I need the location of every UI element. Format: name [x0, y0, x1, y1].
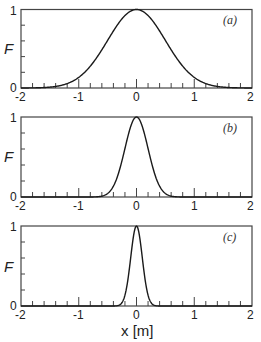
panel-b-ytick-1: 1: [10, 111, 17, 125]
panel-a-xticklabels: -2 -1 0 1 2: [15, 90, 254, 104]
panel-b-curve: [21, 117, 252, 197]
x-axis-label: x [m]: [121, 322, 154, 339]
figure: F 1 0 (a) -2 -1 0 1 2 F 1 0 (b) -2 -1 0 …: [0, 0, 261, 342]
panel-b-xtick--2: -2: [15, 199, 26, 213]
panel-a-ticks: [21, 25, 240, 88]
panel-c-xtick-0: 0: [133, 308, 140, 322]
panel-a-frame: [21, 10, 252, 89]
panel-b-frame: [21, 117, 252, 197]
panel-a-curve: [21, 10, 252, 88]
panel-a-xtick-0: 0: [133, 90, 140, 104]
panel-a-ylabel: F: [4, 40, 14, 57]
panel-c-ytick-1: 1: [10, 220, 17, 234]
panel-b-xtick-0: 0: [133, 199, 140, 213]
panel-c: F 1 0 (c) -2 -1 0 1 2 x [m]: [4, 220, 254, 339]
panel-b: F 1 0 (b) -2 -1 0 1 2: [4, 111, 254, 213]
panel-a-label: (a): [223, 13, 237, 27]
panel-c-xtick-2: 2: [247, 308, 254, 322]
panel-b-xtick--1: -1: [73, 199, 84, 213]
panel-c-xtick--2: -2: [15, 308, 26, 322]
panel-c-frame: [21, 226, 252, 306]
panel-a-xtick-2: 2: [247, 90, 254, 104]
panel-b-xticklabels: -2 -1 0 1 2: [15, 199, 254, 213]
panel-a-xtick--1: -1: [73, 90, 84, 104]
panel-c-label: (c): [223, 230, 236, 244]
panel-b-ticks: [21, 133, 240, 197]
panel-b-ylabel: F: [4, 148, 14, 165]
panel-c-xticklabels: -2 -1 0 1 2: [15, 308, 254, 322]
panel-a-xtick--2: -2: [15, 90, 26, 104]
panel-c-xtick--1: -1: [73, 308, 84, 322]
panel-b-xtick-1: 1: [191, 199, 198, 213]
panel-a: F 1 0 (a) -2 -1 0 1 2: [4, 4, 254, 104]
panel-b-xtick-2: 2: [247, 199, 254, 213]
panel-a-xtick-1: 1: [191, 90, 198, 104]
panel-c-xtick-1: 1: [191, 308, 198, 322]
panel-b-label: (b): [223, 121, 237, 135]
panel-c-ylabel: F: [4, 258, 14, 275]
panel-c-curve: [21, 226, 252, 306]
panel-a-ytick-1: 1: [10, 4, 17, 18]
